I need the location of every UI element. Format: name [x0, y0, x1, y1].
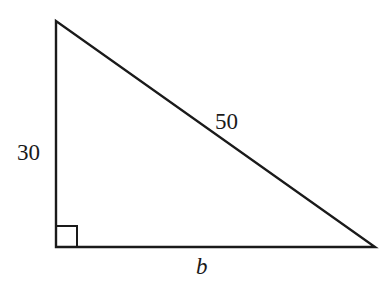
right-triangle	[56, 21, 375, 247]
diagram-svg: 30 50 b	[0, 0, 392, 291]
vertical-leg-label: 30	[17, 140, 40, 165]
right-angle-marker	[56, 226, 77, 247]
hypotenuse-label: 50	[215, 109, 238, 134]
base-label: b	[196, 254, 208, 279]
triangle-diagram: 30 50 b	[0, 0, 392, 291]
